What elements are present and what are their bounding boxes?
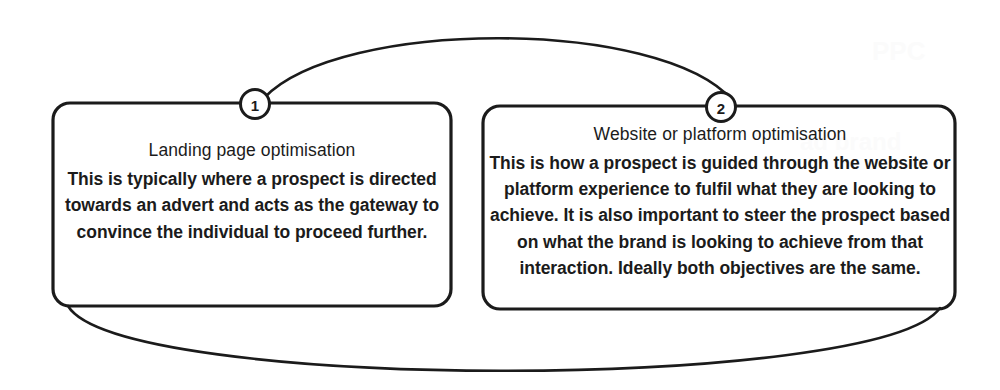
- node-2-body: This is how a prospect is guided through…: [487, 150, 953, 281]
- connector-top-arc: [264, 38, 732, 100]
- node-1-body: This is typically where a prospect is di…: [56, 166, 448, 246]
- diagram-canvas: PPC ad brand 1 2 Landing page optimisati…: [0, 0, 1000, 390]
- node-2-badge-label: 2: [717, 100, 725, 117]
- node-2-title: Website or platform optimisation: [487, 122, 953, 147]
- node-1-badge: 1: [241, 90, 270, 119]
- node-1-title: Landing page optimisation: [56, 138, 448, 163]
- node-1-content: Landing page optimisation This is typica…: [56, 138, 448, 246]
- node-1-badge-label: 1: [251, 97, 259, 114]
- node-2-content: Website or platform optimisation This is…: [487, 122, 953, 281]
- node-2-badge: 2: [707, 93, 736, 122]
- connector-bottom-arc: [68, 306, 940, 371]
